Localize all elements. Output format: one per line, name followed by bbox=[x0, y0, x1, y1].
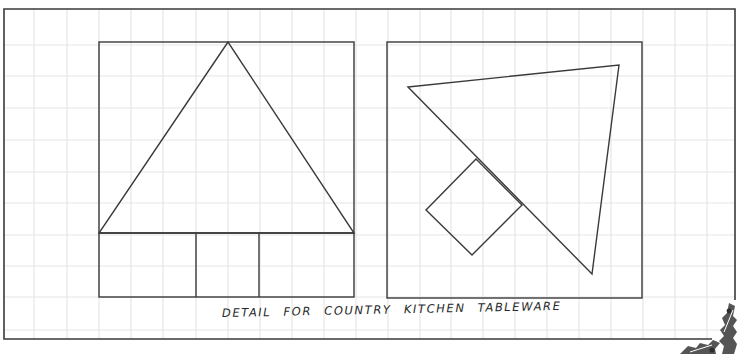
paper-background bbox=[0, 0, 737, 354]
drawing-canvas bbox=[0, 0, 737, 354]
